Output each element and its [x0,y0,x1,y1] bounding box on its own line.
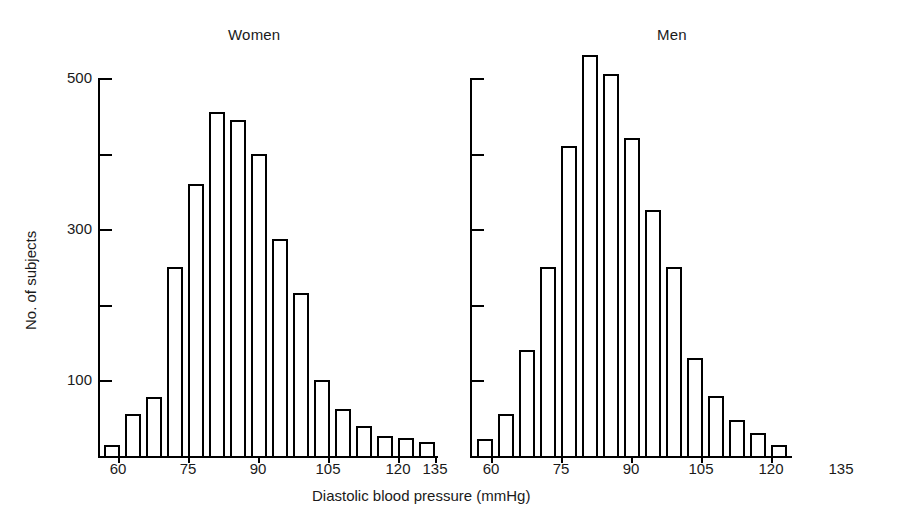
women-bar [293,293,309,456]
women-ytick-400 [100,154,112,156]
women-ytick-label-500: 500 [38,69,92,86]
women-ytick-label-100: 100 [38,371,92,388]
y-axis-label: No. of subjects [22,231,39,330]
women-ytick-300 [100,229,112,231]
women-bar [188,184,204,456]
men-bar [561,146,577,456]
panel-title-women: Women [228,26,280,43]
women-x-axis [98,456,438,458]
women-ytick-200 [100,305,112,307]
men-ytick-400 [472,154,484,156]
women-xtick-label-105: 105 [304,460,352,477]
women-bar [125,414,141,456]
women-ytick-100 [100,380,112,382]
histogram-figure: Women Men No. of subjects Diastolic bloo… [0,0,897,529]
men-xtick-label-135: 135 [817,460,865,477]
men-xtick-label-60: 60 [471,460,511,477]
men-ytick-300 [472,229,484,231]
women-bar [419,442,435,456]
women-xtick-label-135: 135 [411,460,459,477]
women-y-axis [98,78,100,458]
men-bar [519,350,535,456]
women-bar [272,239,288,456]
men-xtick-label-90: 90 [611,460,651,477]
men-bar [708,396,724,456]
men-ytick-200 [472,305,484,307]
women-bar [167,267,183,456]
panel-title-men: Men [657,26,687,43]
women-bar [377,436,393,456]
men-xtick-label-120: 120 [747,460,795,477]
men-bar [729,420,745,456]
men-bar [771,445,787,456]
men-bar [624,138,640,456]
women-xtick-label-60: 60 [98,460,138,477]
men-bar [645,210,661,456]
men-bar [582,55,598,456]
women-xtick-label-90: 90 [238,460,278,477]
women-xtick-label-75: 75 [168,460,208,477]
men-xtick-label-75: 75 [541,460,581,477]
men-y-axis [470,78,472,458]
women-bar [398,438,414,456]
men-ytick-100 [472,380,484,382]
men-bar [687,358,703,456]
women-bar [314,380,330,456]
women-bar [356,426,372,456]
women-bar [209,112,225,456]
women-bar [146,397,162,456]
men-bar [750,433,766,456]
women-bar [335,409,351,456]
men-xtick-label-105: 105 [677,460,725,477]
men-bar [603,74,619,456]
women-bar [251,154,267,456]
women-ytick-500 [100,78,112,80]
men-bar [498,414,514,456]
men-bar [666,267,682,456]
women-bar [230,120,246,456]
men-ytick-500 [472,78,484,80]
men-bar [477,439,493,456]
women-bar [104,445,120,456]
men-bar [540,267,556,456]
women-ytick-label-300: 300 [38,220,92,237]
x-axis-label: Diastolic blood pressure (mmHg) [312,487,530,504]
